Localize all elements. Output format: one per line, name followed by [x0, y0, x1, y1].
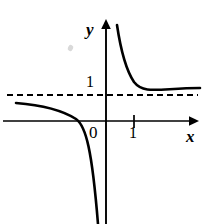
- x-axis: [3, 116, 199, 126]
- y-tick-label-1: 1: [86, 74, 94, 90]
- y-axis-label: y: [86, 21, 94, 38]
- origin-label: 0: [89, 124, 98, 141]
- x-axis-label: x: [186, 128, 195, 145]
- function-graph-figure: y x 0 1 1: [0, 0, 205, 224]
- curve-right-branch: [117, 25, 200, 90]
- x-tick-label-1: 1: [129, 125, 137, 141]
- plot-canvas: [0, 0, 205, 224]
- x-axis-arrowhead: [189, 116, 199, 126]
- y-axis-arrowhead: [101, 19, 111, 29]
